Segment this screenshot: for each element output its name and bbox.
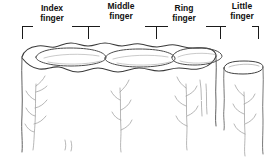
pad-shading [44,53,218,65]
finger-diagram-figure: Index finger Middle finger Ring finger L… [0,0,276,163]
little-left-edge [224,68,225,130]
label-ring-finger-line2: finger [156,14,212,24]
label-index-finger-line2: finger [23,14,81,24]
label-index-finger: Index finger [23,4,81,23]
label-middle-finger-line2: finger [90,12,152,22]
sprig-marks [25,76,256,156]
label-little-finger: Little finger [214,2,270,21]
sprig-center [111,80,132,152]
little-pad-ellipse [224,61,263,74]
pad-mass-bottom-ridge [22,56,216,72]
middle-pad-ellipse [105,49,175,67]
diagram-canvas [0,0,276,163]
little-right-edge [263,67,264,154]
sprig-tick-b [71,141,72,151]
body-left-edge [22,57,23,152]
sprig-left [25,76,47,150]
sprig-right-center [175,77,207,150]
scale-bar [22,26,259,39]
sketch-drawing [22,43,264,156]
little-pad-inner [229,64,259,67]
body-right-edge [216,56,217,126]
label-little-finger-line2: finger [214,12,270,22]
label-ring-finger: Ring finger [156,4,212,23]
sprig-tick-a [65,140,66,150]
sprig-little [233,85,256,156]
label-middle-finger: Middle finger [90,2,152,21]
